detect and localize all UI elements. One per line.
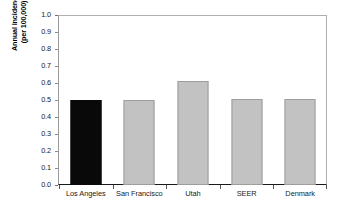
x-axis-tick-mark [166, 185, 167, 189]
x-axis-labels: Los AngelesSan FranciscoUtahSEERDenmark [59, 189, 327, 205]
x-axis-tick-mark [113, 185, 114, 189]
x-axis-label-san-francisco: San Francisco [113, 189, 167, 198]
y-axis-tick-label: 0.8 [41, 44, 51, 53]
bar-denmark[interactable] [285, 99, 316, 185]
bar-slot [273, 15, 327, 185]
bar-slot [220, 15, 274, 185]
x-axis-tick-mark [220, 185, 221, 189]
x-axis-label-los-angeles: Los Angeles [59, 189, 113, 198]
x-axis-tick-mark [273, 185, 274, 189]
bar-san-francisco[interactable] [124, 100, 155, 185]
y-axis-tick-label: 0.4 [41, 112, 51, 121]
bar-slot [166, 15, 220, 185]
bar-seer[interactable] [231, 99, 262, 185]
bar-slot [113, 15, 167, 185]
y-axis-tick-label: 0.9 [41, 27, 51, 36]
y-axis-tick-label: 0.7 [41, 61, 51, 70]
y-axis-tick-label: 1.0 [41, 10, 51, 19]
bar-los-angeles[interactable] [70, 100, 101, 185]
bar-slot [59, 15, 113, 185]
bar-utah[interactable] [177, 81, 208, 185]
x-axis-label-denmark: Denmark [273, 189, 327, 198]
y-axis-ticks: 1.00.90.80.70.60.50.40.30.20.10.0 [0, 15, 58, 185]
x-axis-tick-mark [59, 185, 60, 189]
y-axis-tick-label: 0.0 [41, 180, 51, 189]
x-axis-tick-mark [326, 185, 327, 189]
bars-group [59, 15, 327, 185]
y-axis-tick-label: 0.6 [41, 78, 51, 87]
y-axis-tick-label: 0.3 [41, 129, 51, 138]
x-axis-label-seer: SEER [220, 189, 274, 198]
bar-chart: Annual incidence (per 100,000) 1.00.90.8… [0, 0, 343, 211]
y-axis-tick-label: 0.2 [41, 146, 51, 155]
y-axis-tick-label: 0.1 [41, 163, 51, 172]
x-axis-label-utah: Utah [166, 189, 220, 198]
y-axis-tick-label: 0.5 [41, 95, 51, 104]
